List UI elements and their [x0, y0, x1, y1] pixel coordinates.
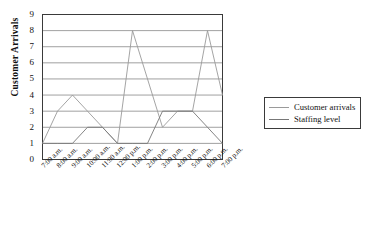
y-tick-6: 6 [18, 58, 34, 67]
plot-frame [43, 15, 223, 160]
legend-item-staffing-level: Staffing level [269, 113, 355, 125]
y-tick-0: 0 [18, 155, 34, 164]
y-tick-7: 7 [18, 42, 34, 51]
y-tick-4: 4 [18, 91, 34, 100]
y-tick-8: 8 [18, 26, 34, 35]
y-tick-2: 2 [18, 123, 34, 132]
legend-swatch-icon [269, 119, 289, 120]
y-tick-3: 3 [18, 107, 34, 116]
legend-item-customer-arrivals: Customer arrivals [269, 101, 355, 113]
series-line-customer-arrivals [43, 31, 223, 144]
legend-label: Staffing level [294, 114, 340, 124]
chart-container: Customer Arrivals 0123456789 7:00 a.m.8:… [0, 0, 389, 226]
y-tick-5: 5 [18, 74, 34, 83]
y-tick-9: 9 [18, 10, 34, 19]
legend-swatch-icon [269, 107, 289, 108]
chart-legend: Customer arrivalsStaffing level [264, 97, 361, 129]
legend-label: Customer arrivals [294, 102, 355, 112]
y-tick-1: 1 [18, 139, 34, 148]
